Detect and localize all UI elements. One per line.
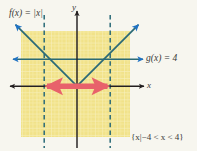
y-axis-label: y <box>72 3 76 12</box>
graph-figure: f(x) = |x| g(x) = 4 y x {x|−4 < x < 4} <box>0 0 197 151</box>
x-axis-label: x <box>147 81 151 90</box>
solution-set-label: {x|−4 < x < 4} <box>131 133 184 142</box>
graph-canvas <box>0 0 197 151</box>
line-label: g(x) = 4 <box>146 54 177 64</box>
function-label: f(x) = |x| <box>9 9 43 19</box>
